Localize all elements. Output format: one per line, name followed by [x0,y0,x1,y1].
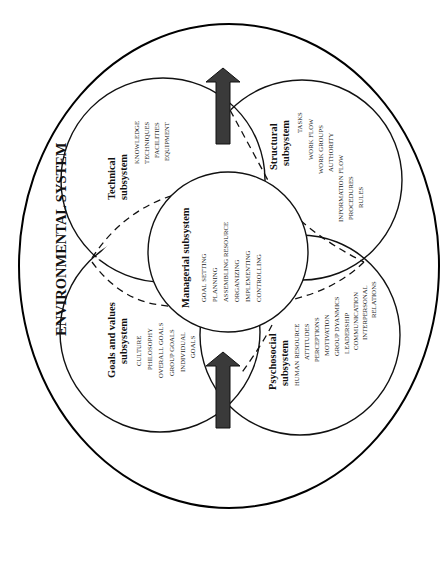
technical-item: EQUIPMENT [163,122,170,161]
psychosocial-item: GROUP DYANMICS [333,296,340,356]
psychosocial-heading-2: subsystem [279,340,290,386]
psychosocial-item: RELATIONS [370,281,377,318]
goals-item: INDIVIDUAL [179,332,186,372]
psychosocial-item: INTERPERSONAL [361,285,368,340]
structural-item: PROCEDURES [347,176,354,220]
goals-heading-1: Goals and values [106,302,117,378]
technical-item: TECHNIQUES [143,121,150,164]
managerial-item: PLANNING [211,267,218,302]
managerial-item: CONTROLLING [255,254,262,302]
psychosocial-item: COMMUNICATION [352,292,359,350]
structural-heading-2: subsystem [280,120,291,166]
psychosocial-item: PERCEPTIONS [313,317,320,362]
environmental-system-title: ENVIRONMENTAL SYSTEM [53,142,69,336]
managerial-item: IMPLEMENTING [244,250,251,302]
psychosocial-item: HUMAN RESOURCE [293,324,300,386]
managerial-item: ORGANIZING [233,259,240,302]
goals-item: PHILOSOPHY [146,328,153,370]
managerial-heading: Managerial subsystem [180,207,191,308]
technical-heading-2: subsystem [118,154,129,200]
structural-heading-1: Structural [268,123,279,170]
psychosocial-heading-1: Psychosocial [267,333,278,390]
structural-item: WORK FLOW [307,118,314,160]
goals-heading-2: subsystem [118,318,129,364]
psychosocial-item: MOTIVATION [323,314,330,356]
structural-item: INFORMATION FLOW [337,154,344,222]
goals-item: GOALS [189,335,196,358]
technical-item: KNOWLEDGE [133,121,140,164]
structural-item: TASKS [296,112,303,133]
psychosocial-item: LEADERSHIP [343,312,350,354]
technical-heading-1: Technical [106,157,117,200]
structural-item: RULES [357,186,364,208]
psychosocial-item: ATTITUDES [303,323,310,360]
goals-item: GROUP GOALS [168,329,175,376]
goals-item: OVERALL GOALS [157,322,164,378]
managerial-item: ASSEMBLING RESOURCE [222,222,229,302]
technical-item: FACILITIES [153,122,160,158]
managerial-item: GOAL SETTING [200,253,207,302]
structural-item: AUTHORITY [327,133,334,172]
structural-item: WORK GROUPS [317,125,324,174]
environmental-system-diagram: ENVIRONMENTAL SYSTEM Technical subsystem… [0,0,448,564]
input-arrow [206,352,240,428]
goals-item: CULTURE [135,336,142,367]
